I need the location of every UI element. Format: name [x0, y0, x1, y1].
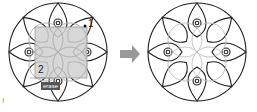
corner-mark: !: [2, 96, 4, 105]
right-panel: [128, 0, 257, 112]
pick-point-1: 1: [88, 18, 94, 29]
rosette-after: [128, 0, 257, 112]
pick-point-2: 2: [38, 64, 44, 75]
rosette-before: [0, 0, 128, 112]
command-tooltip: erase: [41, 82, 60, 90]
left-panel: 1 2 erase !: [0, 0, 128, 112]
